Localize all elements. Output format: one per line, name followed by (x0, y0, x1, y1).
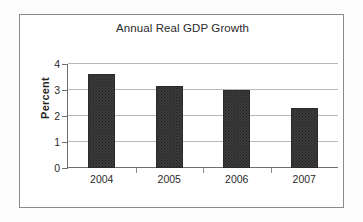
y-axis-tick-label: 2 (38, 110, 60, 122)
x-axis-tick-label-2004: 2004 (75, 173, 129, 185)
y-axis-tick-2 (62, 116, 68, 117)
bar-2007 (291, 108, 318, 168)
x-axis-tick-label-2006: 2006 (210, 173, 264, 185)
bar-2005 (156, 86, 183, 168)
y-axis-tick-label: 0 (38, 162, 60, 174)
chart-title: Annual Real GDP Growth (20, 22, 345, 34)
chart-figure: Annual Real GDP Growth Percent 01234 200… (0, 0, 363, 222)
y-axis-tick-label: 3 (38, 84, 60, 96)
bar-2006 (223, 90, 250, 168)
x-axis-separator-tick (271, 168, 272, 173)
y-axis-tick-3 (62, 90, 68, 91)
x-axis-separator-tick (136, 168, 137, 173)
y-axis-tick-label: 4 (38, 58, 60, 70)
y-axis-tick-0 (62, 168, 68, 169)
y-axis-tick-1 (62, 142, 68, 143)
x-axis-tick-label-2005: 2005 (142, 173, 196, 185)
bar-2004 (88, 74, 115, 168)
gridline-4 (68, 63, 338, 64)
x-axis-separator-tick (203, 168, 204, 173)
y-axis-tick-4 (62, 64, 68, 65)
chart-frame: Annual Real GDP Growth Percent 01234 200… (19, 14, 344, 208)
y-axis-tick-labels: 01234 (34, 29, 60, 199)
y-axis-tick-label: 1 (38, 136, 60, 148)
x-axis-tick-labels: 2004200520062007 (68, 173, 338, 193)
x-axis-tick-label-2007: 2007 (277, 173, 331, 185)
plot-area (68, 64, 338, 168)
